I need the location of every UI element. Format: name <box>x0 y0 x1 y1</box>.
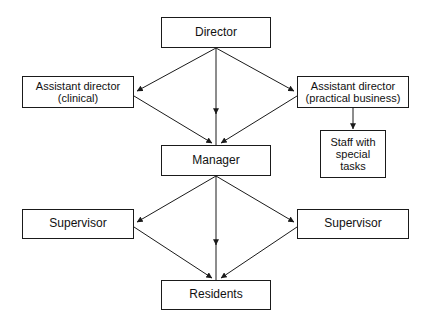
node-assistant-director-practical-business[interactable]: Assistant director (practical business) <box>297 76 409 108</box>
node-staff-with-special-tasks[interactable]: Staff with special tasks <box>320 130 386 178</box>
node-assistant-director-practical-business-label: Assistant director (practical business) <box>304 80 403 105</box>
org-chart-diagram: Director Assistant director (clinical) A… <box>0 0 428 321</box>
node-assistant-director-clinical[interactable]: Assistant director (clinical) <box>22 76 134 108</box>
node-manager-label: Manager <box>190 154 241 167</box>
node-residents-label: Residents <box>187 288 244 301</box>
node-assistant-director-clinical-label: Assistant director (clinical) <box>34 80 122 105</box>
node-manager[interactable]: Manager <box>161 145 271 176</box>
edge-supervisor-right-to-residents <box>221 227 297 278</box>
edge-asst-practical-to-manager <box>221 96 297 143</box>
edge-director-to-asst-practical <box>216 48 294 91</box>
node-supervisor-right[interactable]: Supervisor <box>297 209 409 239</box>
node-residents[interactable]: Residents <box>161 280 271 310</box>
node-director-label: Director <box>193 26 239 39</box>
edge-director-to-asst-clinical <box>137 48 216 91</box>
node-director[interactable]: Director <box>161 17 271 48</box>
edge-manager-to-supervisor-right <box>216 176 294 222</box>
edge-manager-to-supervisor-left <box>137 176 216 222</box>
edge-supervisor-left-to-residents <box>134 227 212 278</box>
node-staff-with-special-tasks-label: Staff with special tasks <box>328 136 377 173</box>
node-supervisor-left[interactable]: Supervisor <box>22 209 134 239</box>
node-supervisor-right-label: Supervisor <box>322 217 383 230</box>
edge-asst-clinical-to-manager <box>134 96 212 143</box>
node-supervisor-left-label: Supervisor <box>47 217 108 230</box>
